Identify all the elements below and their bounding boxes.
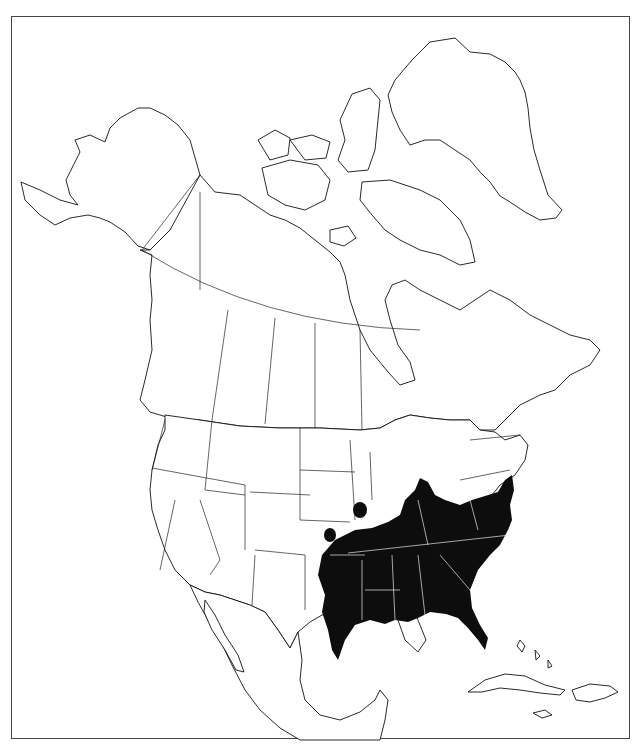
cuba [468,674,565,695]
bahamas [517,640,552,668]
victoria-island [262,160,330,210]
north-america-map [0,0,639,748]
range-disjunct-kansas [324,528,336,542]
jamaica [533,710,552,718]
baffin-island [360,180,475,265]
southampton-island [330,226,356,246]
hispaniola [572,684,618,702]
arctic-islands-small [290,135,330,160]
banks-island [258,130,290,160]
ellesmere-island [338,88,380,172]
range-disjunct-nebraska [353,502,367,518]
